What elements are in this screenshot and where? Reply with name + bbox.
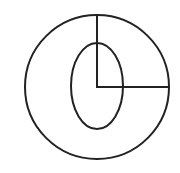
geometry-figure [0,0,180,173]
diagram-canvas [0,0,180,173]
